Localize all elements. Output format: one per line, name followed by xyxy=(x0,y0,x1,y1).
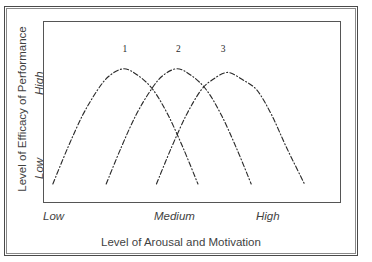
curve-label-2: 2 xyxy=(176,44,181,54)
curve-label-1: 1 xyxy=(122,44,127,54)
x-tick-label-high: High xyxy=(256,210,280,222)
x-axis-title: Level of Arousal and Motivation xyxy=(5,236,357,248)
curve-1 xyxy=(53,69,198,184)
curves-svg xyxy=(44,22,340,202)
x-tick-label-medium: Medium xyxy=(154,210,195,222)
curve-label-3: 3 xyxy=(221,44,226,54)
figure-outer-frame: Level of Efficacy of Performance High Lo… xyxy=(4,6,358,256)
x-tick-label-low: Low xyxy=(43,210,64,222)
plot-area: 1 2 3 xyxy=(43,21,341,203)
y-axis-title: Level of Efficacy of Performance xyxy=(16,14,28,204)
curve-2 xyxy=(106,69,251,184)
curve-3 xyxy=(156,72,304,184)
